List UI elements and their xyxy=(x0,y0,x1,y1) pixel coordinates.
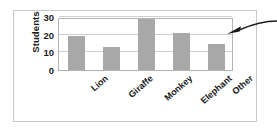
bar-lion xyxy=(68,36,85,70)
x-tick-label-other: Other xyxy=(230,74,254,97)
bar-elephant xyxy=(173,33,190,70)
plot-area xyxy=(58,18,233,71)
y-tick-label-10: 10 xyxy=(34,49,54,59)
bar-series xyxy=(59,19,232,70)
figure-card: Students 30 20 10 0 LionGiraffeMonkeyEle… xyxy=(13,10,257,122)
y-tick-label-30: 30 xyxy=(34,13,54,23)
bar-giraffe xyxy=(103,47,120,70)
y-tick-label-20: 20 xyxy=(34,31,54,41)
x-axis-tick-labels: LionGiraffeMonkeyElephantOther xyxy=(58,71,233,119)
y-tick-label-0: 0 xyxy=(34,66,54,76)
x-tick-label-elephant: Elephant xyxy=(199,74,234,106)
x-tick-label-lion: Lion xyxy=(89,74,109,93)
bar-monkey xyxy=(138,19,155,70)
x-tick-label-giraffe: Giraffe xyxy=(127,74,155,100)
gridline-30 xyxy=(59,16,232,17)
y-axis-tick-labels: 30 20 10 0 xyxy=(28,11,54,123)
x-tick-label-monkey: Monkey xyxy=(163,74,194,103)
bar-other xyxy=(208,44,225,71)
